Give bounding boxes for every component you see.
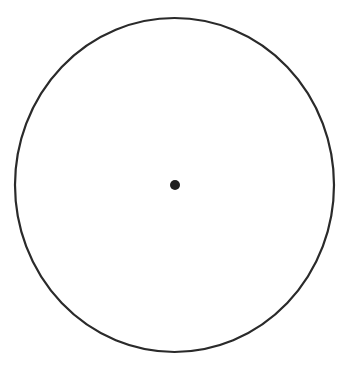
center-point <box>170 180 180 190</box>
circle-diagram <box>0 0 351 369</box>
